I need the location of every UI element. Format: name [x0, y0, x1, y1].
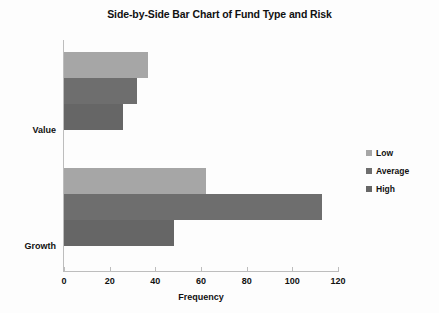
bar-growth-low[interactable]: [64, 168, 206, 194]
plot-area: [64, 40, 338, 272]
chart-container: Side-by-Side Bar Chart of Fund Type and …: [0, 0, 439, 313]
legend-label-low: Low: [376, 148, 393, 158]
x-tick-label-80: 80: [242, 276, 252, 286]
legend-swatch-low-icon: [366, 150, 372, 156]
legend-label-high: High: [376, 184, 395, 194]
x-axis-title: Frequency: [64, 292, 338, 302]
x-tick-120: [338, 267, 339, 272]
x-tick-label-0: 0: [61, 276, 66, 286]
bar-growth-high[interactable]: [64, 220, 174, 246]
y-axis-label-growth: Growth: [25, 241, 57, 251]
x-tick-60: [201, 267, 202, 272]
x-tick-100: [292, 267, 293, 272]
x-tick-label-20: 20: [105, 276, 115, 286]
legend-item-average[interactable]: Average: [366, 164, 409, 178]
y-axis-category-labels: Value Growth: [0, 40, 64, 272]
legend-item-high[interactable]: High: [366, 182, 409, 196]
legend-swatch-average-icon: [366, 168, 372, 174]
x-tick-label-120: 120: [330, 276, 345, 286]
legend-swatch-high-icon: [366, 186, 372, 192]
x-tick-label-40: 40: [150, 276, 160, 286]
x-tick-20: [110, 267, 111, 272]
legend-item-low[interactable]: Low: [366, 146, 409, 160]
x-tick-label-60: 60: [196, 276, 206, 286]
x-tick-80: [247, 267, 248, 272]
legend-label-average: Average: [376, 166, 409, 176]
bar-growth-average[interactable]: [64, 194, 322, 220]
y-axis-label-value: Value: [32, 125, 56, 135]
x-tick-label-100: 100: [285, 276, 300, 286]
legend: Low Average High: [366, 146, 409, 200]
x-tick-40: [155, 267, 156, 272]
bar-value-average[interactable]: [64, 78, 137, 104]
bar-value-high[interactable]: [64, 104, 123, 130]
bar-value-low[interactable]: [64, 52, 148, 78]
chart-title: Side-by-Side Bar Chart of Fund Type and …: [0, 8, 439, 20]
x-tick-0: [64, 267, 65, 272]
